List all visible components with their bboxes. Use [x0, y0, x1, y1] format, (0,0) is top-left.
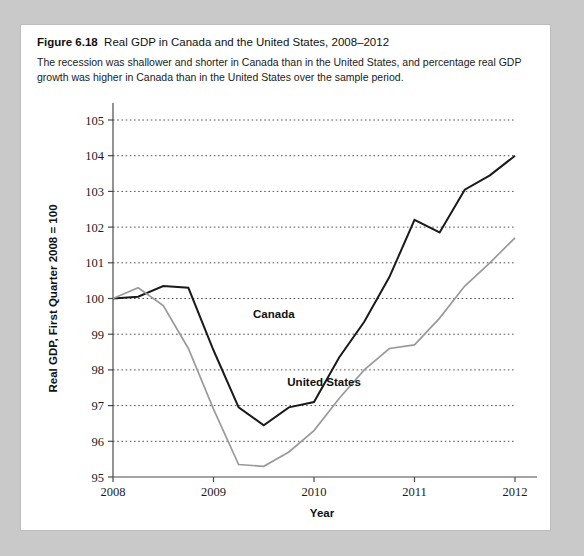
y-tick-label: 101 — [85, 256, 104, 270]
y-tick-label: 103 — [85, 185, 104, 199]
series-line-united-states — [113, 238, 515, 466]
x-tick-label: 2008 — [101, 485, 126, 499]
chart-plot-area: 9596979899100101102103104105 20082009201… — [21, 25, 552, 532]
gridlines — [113, 120, 515, 441]
y-axis-tick-labels: 9596979899100101102103104105 — [85, 114, 105, 485]
x-tick-label: 2009 — [201, 485, 226, 499]
x-tick-label: 2010 — [302, 485, 327, 499]
y-tick-label: 95 — [92, 471, 105, 485]
y-tick-label: 96 — [92, 435, 105, 449]
y-tick-label: 98 — [92, 363, 105, 377]
x-axis-tick-labels: 20082009201020112012 — [101, 485, 528, 499]
data-series — [113, 156, 515, 467]
y-tick-label: 99 — [92, 328, 105, 342]
x-tick-label: 2011 — [402, 485, 427, 499]
y-tick-label: 100 — [85, 292, 104, 306]
series-label-united-states: United States — [287, 376, 361, 388]
axes — [113, 103, 537, 477]
x-tick-label: 2012 — [503, 485, 528, 499]
y-tick-label: 102 — [85, 221, 104, 235]
gdp-line-chart: 9596979899100101102103104105 20082009201… — [21, 25, 552, 532]
y-tick-label: 105 — [85, 114, 104, 128]
series-label-canada: Canada — [253, 308, 295, 320]
figure-panel: Figure 6.18 Real GDP in Canada and the U… — [20, 24, 551, 531]
y-tick-label: 104 — [85, 149, 105, 163]
y-tick-label: 97 — [92, 399, 105, 413]
y-axis-title: Real GDP, First Quarter 2008 = 100 — [47, 204, 59, 392]
x-axis-title: Year — [310, 507, 335, 519]
